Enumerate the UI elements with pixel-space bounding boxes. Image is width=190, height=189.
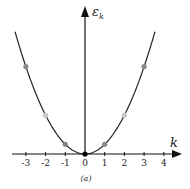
- figure-caption: (a): [80, 174, 91, 183]
- data-point: [122, 113, 127, 118]
- x-tick-label: 0: [82, 158, 88, 168]
- x-tick-label: 1: [102, 158, 108, 168]
- data-point: [43, 113, 48, 118]
- x-tick-label: 2: [122, 158, 128, 168]
- dispersion-chart: -3-2-101234 k εk (a): [0, 0, 190, 189]
- data-point: [142, 64, 147, 69]
- data-point: [82, 151, 87, 156]
- x-tick-label: -3: [22, 158, 31, 168]
- x-tick-label: 3: [141, 158, 147, 168]
- x-tick-label: -1: [61, 158, 70, 168]
- y-axis-arrow-icon: [81, 6, 89, 17]
- data-point: [102, 142, 107, 147]
- x-axis-arrow-icon: [172, 150, 182, 158]
- x-tick-label: 4: [161, 158, 167, 168]
- y-axis-label: εk: [92, 4, 104, 21]
- data-point: [63, 142, 68, 147]
- x-tick-label: -2: [41, 158, 50, 168]
- x-axis-label: k: [170, 135, 178, 150]
- data-point: [23, 64, 28, 69]
